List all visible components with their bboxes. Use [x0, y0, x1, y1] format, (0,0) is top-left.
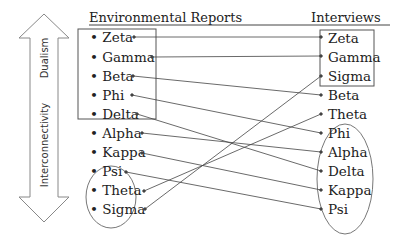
- svg-text:• Sigma: • Sigma: [90, 201, 145, 217]
- right-item: Delta: [328, 163, 365, 179]
- right-item: Kappa: [328, 182, 371, 198]
- left-column: • Zeta • Gamma • Beta • Phi • Delta • Al…: [90, 29, 155, 217]
- svg-text:• Psi: • Psi: [90, 163, 123, 179]
- header-environmental-reports: Environmental Reports: [89, 10, 242, 25]
- right-item: Alpha: [327, 144, 367, 160]
- right-item: Phi: [328, 125, 351, 141]
- left-item: Sigma: [102, 201, 145, 217]
- left-item: Gamma: [102, 49, 154, 65]
- right-item: Gamma: [328, 49, 380, 65]
- left-item: Alpha: [101, 125, 141, 141]
- left-item: Delta: [102, 106, 139, 122]
- right-item: Psi: [328, 201, 349, 217]
- svg-text:• Delta: • Delta: [90, 106, 139, 122]
- right-item: Zeta: [328, 30, 359, 46]
- svg-text:• Gamma: • Gamma: [90, 49, 155, 65]
- right-item: Theta: [328, 106, 367, 122]
- left-item: Theta: [102, 182, 141, 198]
- axis-top-label: Dualism: [39, 38, 50, 79]
- left-item: Zeta: [102, 29, 133, 45]
- svg-text:• Alpha: • Alpha: [90, 125, 142, 141]
- header-interviews: Interviews: [311, 10, 381, 25]
- left-item: Psi: [102, 163, 123, 179]
- svg-text:• Beta: • Beta: [90, 68, 134, 84]
- axis-bottom-label: Interconnectivity: [39, 103, 50, 188]
- svg-text:• Zeta: • Zeta: [90, 29, 133, 45]
- svg-text:• Theta: • Theta: [90, 182, 141, 198]
- right-item: Sigma: [328, 68, 371, 84]
- left-item: Phi: [102, 87, 125, 103]
- diagram: Dualism Interconnectivity Environmental …: [0, 0, 408, 236]
- left-item: Kappa: [102, 144, 145, 160]
- right-item: Beta: [328, 87, 359, 103]
- svg-text:• Phi: • Phi: [90, 87, 125, 103]
- svg-text:• Kappa: • Kappa: [90, 144, 146, 160]
- left-item: Beta: [102, 68, 133, 84]
